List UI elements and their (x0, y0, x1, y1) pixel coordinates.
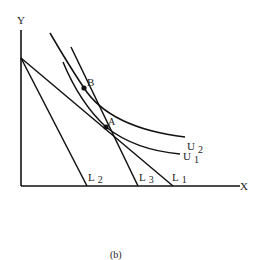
consumer-choice-diagram: Y X B A U2 U1 L2 L3 L1 (b) (0, 0, 263, 260)
x-axis-label: X (240, 180, 248, 192)
label-l2: L2 (88, 171, 103, 185)
label-u1: U1 (183, 150, 199, 165)
point-a-label: A (108, 116, 116, 127)
point-b-marker (81, 85, 86, 90)
budget-line-l3 (71, 47, 138, 186)
point-b-label: B (87, 76, 94, 88)
figure-caption: (b) (110, 249, 122, 260)
label-l1: L1 (172, 171, 187, 185)
indifference-curve-u2 (50, 33, 185, 137)
y-axis-label: Y (17, 14, 25, 26)
label-l3: L3 (139, 171, 154, 185)
budget-line-l1 (21, 58, 173, 186)
